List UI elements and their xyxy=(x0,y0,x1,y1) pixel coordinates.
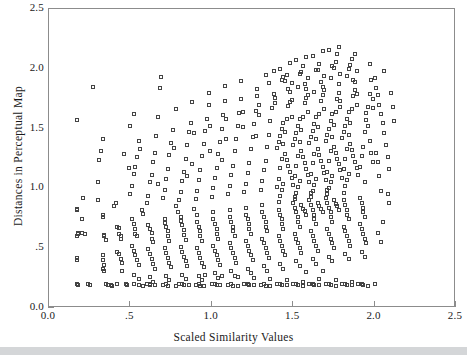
scatter-points-layer xyxy=(49,9,454,306)
scatter-point xyxy=(117,252,121,256)
scatter-point xyxy=(132,222,136,226)
scatter-point xyxy=(347,239,351,243)
scatter-point xyxy=(182,228,186,232)
scatter-point xyxy=(203,129,207,133)
scatter-point xyxy=(317,277,321,281)
scatter-point xyxy=(319,159,323,163)
scatter-point xyxy=(164,282,168,286)
scatter-point xyxy=(189,121,193,125)
scatter-point xyxy=(327,206,331,210)
scatter-point xyxy=(127,166,131,170)
scatter-point xyxy=(312,183,316,187)
scatter-point xyxy=(88,283,92,287)
scatter-point xyxy=(244,239,248,243)
scatter-point xyxy=(163,217,167,221)
scatter-point xyxy=(321,269,325,273)
scatter-point xyxy=(252,283,256,287)
scatter-point xyxy=(99,149,103,153)
scatter-point xyxy=(330,174,334,178)
scatter-point xyxy=(343,124,347,128)
scatter-point xyxy=(213,176,217,180)
scatter-point xyxy=(180,223,184,227)
scatter-point xyxy=(213,271,217,275)
scatter-point xyxy=(369,151,373,155)
scatter-point xyxy=(197,178,201,182)
bottom-divider-bar xyxy=(0,347,467,355)
scatter-point xyxy=(312,152,316,156)
scatter-point xyxy=(337,45,341,49)
scatter-point xyxy=(277,140,281,144)
scatter-point xyxy=(251,258,255,262)
scatter-point xyxy=(296,215,300,219)
scatter-point xyxy=(311,129,315,133)
scatter-point xyxy=(180,179,184,183)
scatter-point xyxy=(368,92,372,96)
scatter-point xyxy=(364,241,368,245)
scatter-point xyxy=(278,262,282,266)
scatter-point xyxy=(343,203,347,207)
scatter-point xyxy=(115,282,119,286)
scatter-point xyxy=(374,151,378,155)
scatter-point xyxy=(200,239,204,243)
scatter-point xyxy=(128,124,132,128)
scatter-point xyxy=(231,251,235,255)
scatter-point xyxy=(192,131,196,135)
scatter-point xyxy=(179,245,183,249)
scatter-point xyxy=(190,162,194,166)
scatter-point xyxy=(291,183,295,187)
scatter-point xyxy=(294,164,298,168)
scatter-point xyxy=(277,234,281,238)
scatter-point xyxy=(358,165,362,169)
scatter-point xyxy=(285,283,289,287)
scatter-point xyxy=(229,269,233,273)
scatter-point xyxy=(293,195,297,199)
scatter-point xyxy=(223,99,227,103)
scatter-point xyxy=(187,130,191,134)
scatter-point xyxy=(281,227,285,231)
scatter-point xyxy=(220,127,224,131)
scatter-point xyxy=(146,194,150,198)
scatter-point xyxy=(278,239,282,243)
scatter-point xyxy=(304,270,308,274)
scatter-point xyxy=(218,263,222,267)
scatter-point xyxy=(301,64,305,68)
scatter-point xyxy=(150,257,154,261)
scatter-point xyxy=(229,282,233,286)
scatter-point xyxy=(180,273,184,277)
scatter-point xyxy=(262,264,266,268)
scatter-point xyxy=(260,237,264,241)
scatter-point xyxy=(316,249,320,253)
scatter-point xyxy=(216,258,220,262)
scatter-point xyxy=(296,220,300,224)
scatter-point xyxy=(311,208,315,212)
x-tick-label: 1.5 xyxy=(285,310,299,321)
scatter-point xyxy=(154,134,158,138)
scatter-point xyxy=(190,100,194,104)
scatter-point xyxy=(132,112,136,116)
scatter-point xyxy=(234,137,238,141)
scatter-point xyxy=(366,124,370,128)
scatter-point xyxy=(239,97,243,101)
x-tick-mark xyxy=(211,301,212,307)
scatter-point xyxy=(311,54,315,58)
scatter-point xyxy=(197,274,201,278)
scatter-point xyxy=(377,174,381,178)
scatter-point xyxy=(169,141,173,145)
scatter-point xyxy=(182,170,186,174)
scatter-point xyxy=(141,284,145,288)
scatter-point xyxy=(334,284,338,288)
scatter-point xyxy=(228,184,232,188)
scatter-point xyxy=(246,267,250,271)
scatter-point xyxy=(278,282,282,286)
scatter-point xyxy=(348,244,352,248)
scatter-point xyxy=(255,87,259,91)
scatter-point xyxy=(363,215,367,219)
scatter-point xyxy=(340,176,344,180)
scatter-point xyxy=(296,85,300,89)
scatter-point xyxy=(296,124,300,128)
y-tick-label: 2.0 xyxy=(30,62,44,73)
scatter-point xyxy=(244,213,248,217)
scatter-point xyxy=(268,119,272,123)
scatter-point xyxy=(309,191,313,195)
scatter-point xyxy=(314,262,318,266)
